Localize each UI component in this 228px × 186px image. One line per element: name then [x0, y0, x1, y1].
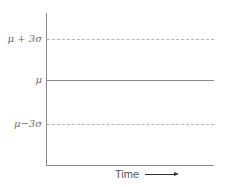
center-line [46, 80, 214, 81]
arrow-right-icon [145, 174, 175, 175]
y-axis [46, 13, 47, 166]
lower-control-limit-line [47, 124, 214, 125]
x-axis [46, 165, 214, 166]
mean-label: μ [36, 75, 43, 85]
ucl-label: μ + 3σ [8, 34, 42, 44]
lcl-label: μ−3σ [14, 119, 42, 129]
x-axis-label: Time [115, 168, 139, 180]
upper-control-limit-line [47, 39, 214, 40]
